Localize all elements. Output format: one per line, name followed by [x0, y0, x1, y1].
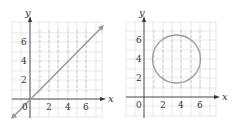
right-x-arrow-icon	[214, 95, 220, 99]
left-x-tick-6: 6	[83, 102, 89, 112]
right-y-label: y	[138, 7, 145, 18]
left-x-tick-2: 2	[46, 102, 52, 112]
right-y-tick-2: 2	[136, 73, 142, 83]
figure: y x 0 2 4 6 2 4 6	[0, 0, 236, 131]
left-x-arrow-icon	[100, 97, 106, 101]
left-x-tick-4: 4	[65, 102, 71, 112]
right-graph: y x 0 2 4 6 2 4 6	[126, 7, 228, 118]
right-y-tick-6: 6	[136, 35, 142, 45]
left-origin-label: 0	[22, 102, 28, 112]
left-x-label: x	[108, 93, 114, 104]
left-y-tick-2: 2	[21, 75, 27, 85]
left-y-tick-4: 4	[21, 56, 27, 66]
right-x-tick-2: 2	[160, 100, 166, 110]
right-x-tick-6: 6	[197, 100, 203, 110]
right-dashed-guides	[154, 30, 200, 90]
right-origin-label: 0	[136, 100, 142, 110]
right-y-tick-4: 4	[136, 54, 142, 64]
right-x-tick-4: 4	[178, 100, 184, 110]
left-y-label: y	[24, 7, 31, 18]
left-y-tick-6: 6	[21, 37, 27, 47]
left-graph: y x 0 2 4 6 2 4 6	[11, 7, 114, 119]
right-x-label: x	[222, 91, 228, 102]
